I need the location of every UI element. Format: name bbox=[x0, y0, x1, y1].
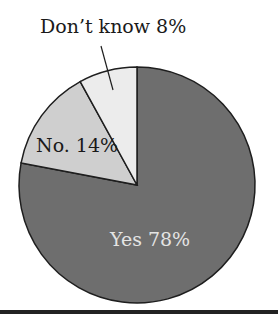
label-yes: Yes 78% bbox=[109, 228, 190, 250]
pie-chart: Don’t know 8% No. 14% Yes 78% bbox=[0, 0, 278, 318]
label-dont-know: Don’t know 8% bbox=[40, 15, 186, 37]
label-no: No. 14% bbox=[36, 134, 118, 156]
bottom-rule bbox=[0, 310, 278, 314]
